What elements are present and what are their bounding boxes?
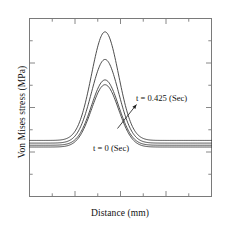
plot-canvas	[0, 0, 225, 238]
annotation-late-time: t = 0.425 (Sec)	[136, 93, 187, 103]
von-mises-stress-figure: Von Mises stress (MPa) Distance (mm) t =…	[0, 0, 225, 238]
annotation-initial-time: t = 0 (Sec)	[93, 143, 129, 153]
x-axis-title: Distance (mm)	[29, 208, 211, 218]
plot-frame	[30, 19, 212, 197]
y-axis-title: Von Mises stress (MPa)	[17, 42, 27, 182]
